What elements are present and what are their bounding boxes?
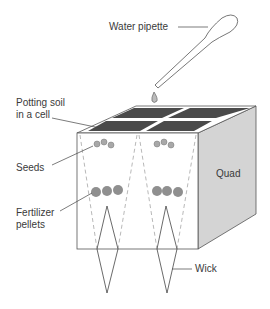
label-wick: Wick: [195, 263, 217, 275]
label-fertilizer-pellets: Fertilizer pellets: [16, 207, 54, 231]
diagram-canvas: Water pipette Potting soil in a cell See…: [0, 0, 270, 309]
label-potting-soil-line2: in a cell: [16, 109, 65, 121]
label-water-pipette: Water pipette: [109, 21, 168, 33]
label-potting-soil-line1: Potting soil: [16, 97, 65, 109]
label-fertilizer-line2: pellets: [16, 219, 54, 231]
label-seeds: Seeds: [16, 162, 44, 174]
water-drop: [152, 92, 157, 103]
label-fertilizer-line1: Fertilizer: [16, 207, 54, 219]
label-potting-soil: Potting soil in a cell: [16, 97, 65, 121]
growing-quad-diagram: [0, 0, 270, 309]
label-quad: Quad: [216, 168, 240, 180]
